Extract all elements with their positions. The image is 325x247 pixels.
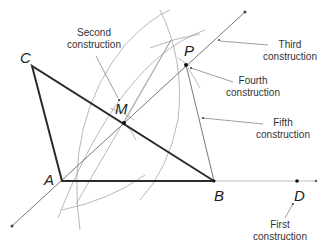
arc-left-large	[58, 30, 205, 218]
label-p: P	[184, 42, 194, 59]
segment-pb	[186, 65, 214, 181]
annotation-fifth: Fifth construction	[256, 117, 310, 140]
arc-tick-p1	[178, 58, 190, 66]
pointer-fifth	[203, 118, 263, 124]
point-m	[122, 121, 126, 125]
line-end-lower	[11, 225, 14, 228]
pointer-fourth	[191, 68, 233, 82]
pointer-third	[220, 41, 268, 45]
point-b	[213, 180, 216, 183]
arc-intersect-line	[124, 40, 171, 123]
annotation-second: Second construction	[67, 27, 121, 50]
label-c: C	[20, 49, 31, 66]
point-p	[184, 63, 188, 67]
arc-vertical-right	[140, 10, 180, 200]
label-m: M	[115, 100, 128, 117]
svg-text:construction: construction	[253, 231, 307, 242]
annotation-fourth: Fourth construction	[226, 75, 280, 98]
annotation-third: Third construction	[263, 39, 317, 62]
svg-text:Fourth: Fourth	[239, 75, 268, 86]
label-a: A	[43, 171, 54, 188]
svg-text:Second: Second	[77, 27, 111, 38]
svg-text:Third: Third	[279, 39, 302, 50]
svg-text:Fifth: Fifth	[273, 117, 292, 128]
arc-tick-p2	[188, 68, 200, 88]
label-b: B	[214, 187, 224, 204]
svg-text:construction: construction	[226, 87, 280, 98]
annotation-first: First construction	[253, 219, 307, 242]
pointer-second	[96, 56, 118, 98]
construction-diagram: C A B D M P Second construction Third co…	[0, 0, 325, 247]
line-end-upper	[244, 11, 247, 14]
svg-text:construction: construction	[67, 39, 121, 50]
base-extension-end	[315, 180, 317, 182]
svg-text:construction: construction	[263, 51, 317, 62]
label-d: D	[294, 187, 305, 204]
point-d	[295, 179, 299, 183]
pointer-first	[285, 204, 293, 218]
svg-text:construction: construction	[256, 129, 310, 140]
svg-text:First: First	[270, 219, 290, 230]
